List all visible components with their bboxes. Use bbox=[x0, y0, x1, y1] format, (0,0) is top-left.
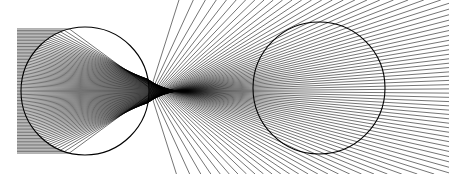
ray-diagram-figure bbox=[0, 0, 449, 174]
